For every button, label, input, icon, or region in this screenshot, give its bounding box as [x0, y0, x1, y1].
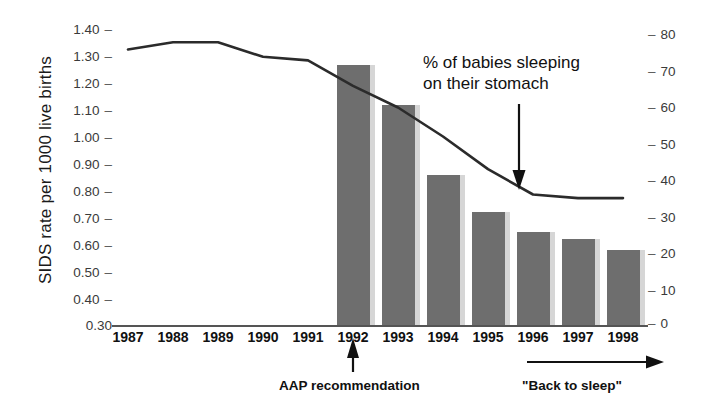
- x-axis-line: [112, 325, 648, 327]
- x-tick-label: 1995: [465, 329, 511, 345]
- bar-1996: [517, 232, 550, 325]
- y-tick-left: 1.20–: [73, 76, 112, 91]
- x-tick-label: 1998: [600, 329, 646, 345]
- tick-dash-icon: –: [104, 184, 112, 199]
- tick-dash-icon: –: [104, 49, 112, 64]
- tick-dash-icon: –: [648, 64, 656, 79]
- sids-chart: SIDS rate per 1000 live births 1.40– 1.3…: [0, 0, 711, 410]
- x-tick-label: 1992: [330, 329, 376, 345]
- y-tick-right: –60: [648, 100, 676, 115]
- y-tick-left: 0.60–: [73, 238, 112, 253]
- y-axis-left-ticks: 1.40– 1.30– 1.20– 1.10– 1.00– 0.90– 0.80…: [56, 0, 112, 410]
- y-tick-right: –30: [648, 210, 676, 225]
- y-tick-left: 1.10–: [73, 103, 112, 118]
- y-tick-left: 0.40–: [73, 292, 112, 307]
- bar-1997: [562, 239, 595, 325]
- tick-dash-icon: –: [104, 103, 112, 118]
- y-tick-left: 1.30–: [73, 49, 112, 64]
- tick-dash-icon: –: [104, 238, 112, 253]
- tick-dash-icon: –: [648, 316, 656, 331]
- bar-1998: [607, 250, 640, 325]
- tick-dash-icon: –: [104, 292, 112, 307]
- x-tick-label: 1988: [150, 329, 196, 345]
- back-to-sleep-note: "Back to sleep": [522, 378, 622, 393]
- stomach-sleeping-callout: % of babies sleeping on their stomach: [423, 52, 580, 94]
- y-tick-left: 0.80–: [73, 184, 112, 199]
- y-tick-left: 1.00–: [73, 130, 112, 145]
- y-tick-left: 0.90–: [73, 157, 112, 172]
- y-tick-left: 0.70–: [73, 211, 112, 226]
- bar-1994: [427, 175, 460, 325]
- tick-dash-icon: –: [104, 265, 112, 280]
- aap-recommendation-note: AAP recommendation: [279, 378, 420, 393]
- x-tick-label: 1997: [555, 329, 601, 345]
- x-tick-label: 1996: [510, 329, 556, 345]
- y-axis-right-ticks: –80 –70 –60 –50 –40 –30 –20 –10 –0: [648, 0, 708, 410]
- tick-dash-icon: –: [104, 76, 112, 91]
- x-tick-label: 1989: [195, 329, 241, 345]
- y-tick-left: 1.40–: [73, 22, 112, 37]
- x-tick-label: 1994: [420, 329, 466, 345]
- tick-dash-icon: –: [648, 246, 656, 261]
- y-axis-left-label: SIDS rate per 1000 live births: [36, 20, 56, 320]
- x-tick-label: 1991: [285, 329, 331, 345]
- tick-dash-icon: –: [104, 157, 112, 172]
- y-tick-right: –40: [648, 173, 676, 188]
- x-tick-label: 1990: [240, 329, 286, 345]
- tick-dash-icon: –: [648, 173, 656, 188]
- tick-dash-icon: –: [648, 283, 656, 298]
- tick-dash-icon: –: [104, 211, 112, 226]
- x-axis-labels: 1987 1988 1989 1990 1991 1992 1993 1994 …: [112, 329, 648, 353]
- bar-1992: [337, 65, 370, 325]
- bar-1993: [382, 105, 415, 325]
- tick-dash-icon: –: [648, 137, 656, 152]
- tick-dash-icon: –: [648, 210, 656, 225]
- x-tick-label: 1987: [105, 329, 151, 345]
- y-tick-right: –50: [648, 137, 676, 152]
- x-tick-label: 1993: [375, 329, 421, 345]
- y-tick-right: –80: [648, 27, 676, 42]
- y-tick-right: –20: [648, 246, 676, 261]
- y-tick-right: –0: [648, 316, 668, 331]
- tick-dash-icon: –: [104, 22, 112, 37]
- tick-dash-icon: –: [104, 130, 112, 145]
- bar-1995: [472, 212, 505, 325]
- tick-dash-icon: –: [648, 27, 656, 42]
- y-tick-right: –70: [648, 64, 676, 79]
- y-tick-left: 0.50–: [73, 265, 112, 280]
- y-tick-right: –10: [648, 283, 676, 298]
- tick-dash-icon: –: [648, 100, 656, 115]
